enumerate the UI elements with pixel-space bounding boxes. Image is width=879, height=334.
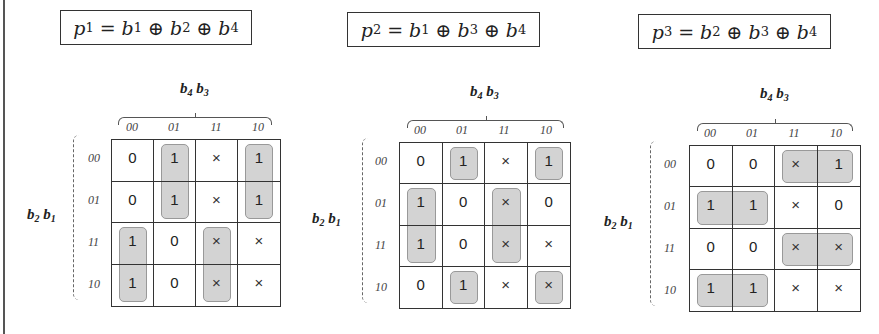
- col-label: 11: [195, 120, 237, 135]
- row-label: 00: [88, 141, 100, 183]
- kmap-cell: ×: [196, 223, 238, 265]
- equation-p2: p2 = b1 ⊕ b3 ⊕ b4: [347, 12, 540, 47]
- col-label: 00: [689, 126, 731, 141]
- kmap-cell: 0: [443, 184, 486, 225]
- kmap-cell: ×: [196, 265, 238, 307]
- kmap-cell: ×: [485, 143, 528, 184]
- eq-term: b: [409, 19, 421, 41]
- xor-operator: ⊕: [484, 19, 500, 41]
- xor-operator: ⊕: [148, 17, 164, 39]
- kmap-cell: 1: [528, 143, 571, 184]
- kmap-cell: 0: [528, 184, 571, 225]
- row-label: 00: [375, 144, 387, 186]
- xor-operator: ⊕: [727, 21, 743, 43]
- kmap-cell: 1: [443, 267, 486, 308]
- kmap-cell: ×: [485, 226, 528, 267]
- eq-term: b: [457, 19, 469, 41]
- kmap-cell: ×: [528, 226, 571, 267]
- kmap-cell: ×: [818, 229, 861, 270]
- eq-term-sub: 3: [470, 22, 478, 37]
- kmap-grid-p2: 01×110×010××01××: [399, 142, 571, 309]
- kmap-cell: 0: [400, 143, 443, 184]
- column-variables-label: b4 b3: [760, 85, 789, 103]
- row-labels: 00 01 11 10: [375, 144, 387, 312]
- kmap-cell: 1: [443, 143, 486, 184]
- row-labels: 00 01 11 10: [664, 147, 676, 315]
- kmap-cell: 0: [112, 182, 154, 224]
- eq-equals: =: [387, 19, 403, 41]
- row-label: 11: [664, 231, 676, 273]
- eq-term-sub: 4: [518, 22, 526, 37]
- kmap-cell: ×: [196, 182, 238, 224]
- kmap-cell: 0: [690, 229, 733, 270]
- kmap-cell: ×: [775, 229, 818, 270]
- kmap-cell: 0: [443, 226, 486, 267]
- row-brace: [362, 138, 370, 303]
- kmap-cell: 1: [400, 226, 443, 267]
- eq-lhs-sub: 2: [373, 22, 381, 37]
- eq-term-sub: 1: [421, 22, 429, 37]
- row-label: 00: [664, 147, 676, 189]
- kmap-cell: 0: [154, 223, 196, 265]
- row-variables-label: b2 b1: [27, 206, 56, 224]
- kmap-cell: ×: [775, 187, 818, 228]
- eq-term-sub: 4: [809, 24, 817, 39]
- kmap-cell: 0: [733, 229, 776, 270]
- row-brace: [650, 141, 658, 306]
- kmap-cell: 1: [733, 187, 776, 228]
- eq-equals: =: [678, 21, 694, 43]
- eq-term-sub: 3: [761, 24, 769, 39]
- kmap-cell: ×: [196, 140, 238, 182]
- eq-lhs: p: [361, 19, 373, 41]
- col-label: 10: [237, 120, 279, 135]
- eq-term: b: [748, 21, 760, 43]
- equation-p1: p1 = b1 ⊕ b2 ⊕ b4: [60, 10, 252, 45]
- kmap-cell: ×: [238, 223, 280, 265]
- xor-operator: ⊕: [775, 21, 791, 43]
- kmap-cell: 1: [154, 182, 196, 224]
- eq-term: b: [122, 17, 134, 39]
- equation-p3: p3 = b2 ⊕ b3 ⊕ b4: [638, 14, 831, 49]
- kmap-cell: 1: [690, 187, 733, 228]
- kmap-cell: ×: [485, 267, 528, 308]
- eq-term: b: [506, 19, 518, 41]
- eq-lhs-sub: 3: [664, 24, 672, 39]
- col-label: 11: [483, 123, 525, 138]
- kmap-cell: ×: [238, 265, 280, 307]
- xor-operator: ⊕: [436, 19, 452, 41]
- col-label: 10: [525, 123, 567, 138]
- row-label: 10: [88, 267, 100, 309]
- column-variables-label: b4 b3: [180, 80, 209, 98]
- row-variables-label: b2 b1: [312, 210, 341, 228]
- col-label: 01: [441, 123, 483, 138]
- col-label: 00: [111, 120, 153, 135]
- col-label: 10: [815, 126, 857, 141]
- kmap-cell: 1: [690, 270, 733, 311]
- kmap-cell: ×: [775, 146, 818, 187]
- kmap-cell: 0: [154, 265, 196, 307]
- kmap-cell: 1: [238, 140, 280, 182]
- eq-term: b: [797, 21, 809, 43]
- kmap-cell: 0: [818, 187, 861, 228]
- row-variables-label: b2 b1: [604, 213, 633, 231]
- eq-term-sub: 2: [712, 24, 720, 39]
- kmap-cell: 1: [112, 265, 154, 307]
- xor-operator: ⊕: [196, 17, 212, 39]
- eq-lhs: p: [652, 21, 664, 43]
- kmap-cell: ×: [775, 270, 818, 311]
- eq-lhs-sub: 1: [85, 20, 93, 35]
- row-label: 11: [375, 228, 387, 270]
- kmap-panel-p2: p2 = b1 ⊕ b3 ⊕ b4 b4 b3 00 01 11 10 b2 b…: [290, 0, 580, 334]
- eq-equals: =: [100, 17, 116, 39]
- eq-lhs: p: [73, 17, 85, 39]
- column-labels: 00 01 11 10: [689, 126, 857, 141]
- kmap-cell: 1: [818, 146, 861, 187]
- kmap-cell: ×: [485, 184, 528, 225]
- row-brace: [73, 135, 81, 300]
- kmap-cell: 0: [690, 146, 733, 187]
- kmap-grid-p1: 01×101×110××10××: [111, 139, 281, 307]
- col-label: 01: [731, 126, 773, 141]
- kmap-cell: 1: [400, 184, 443, 225]
- kmap-cell: 1: [238, 182, 280, 224]
- eq-term: b: [170, 17, 182, 39]
